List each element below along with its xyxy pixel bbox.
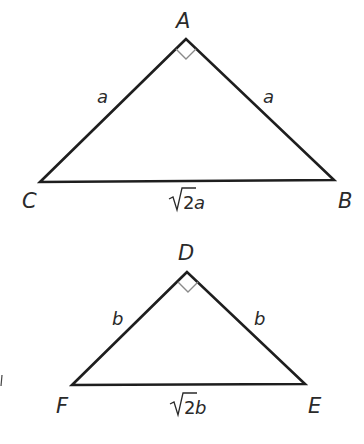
hypotenuse-coefficient: 2	[184, 397, 195, 418]
vertex-label-e: E	[308, 394, 322, 418]
side-label-ca: a	[97, 86, 108, 107]
hypotenuse-variable: a	[194, 192, 205, 213]
vertex-label-d: D	[178, 241, 194, 265]
triangle-def: D F E b b 2 b	[56, 241, 322, 418]
triangle-abc-outline	[40, 39, 334, 182]
hypotenuse-label-cb: 2 a	[169, 188, 205, 213]
triangle-abc: A C B a a 2 a	[22, 9, 352, 213]
edge-mark	[1, 375, 2, 386]
vertex-label-b: B	[338, 189, 352, 213]
hypotenuse-variable: b	[195, 397, 206, 418]
right-angle-mark-d	[178, 282, 198, 292]
diagram-canvas: A C B a a 2 a D F E b b 2 b	[0, 0, 364, 444]
hypotenuse-label-fe: 2 b	[170, 393, 206, 418]
side-label-de: b	[254, 308, 265, 329]
vertex-label-f: F	[56, 394, 69, 418]
side-label-fd: b	[112, 308, 123, 329]
vertex-label-a: A	[174, 9, 190, 33]
hypotenuse-coefficient: 2	[183, 192, 194, 213]
vertex-label-c: C	[22, 189, 37, 213]
side-label-ab: a	[263, 86, 274, 107]
right-angle-mark-a	[176, 49, 196, 59]
triangle-def-outline	[72, 272, 305, 385]
